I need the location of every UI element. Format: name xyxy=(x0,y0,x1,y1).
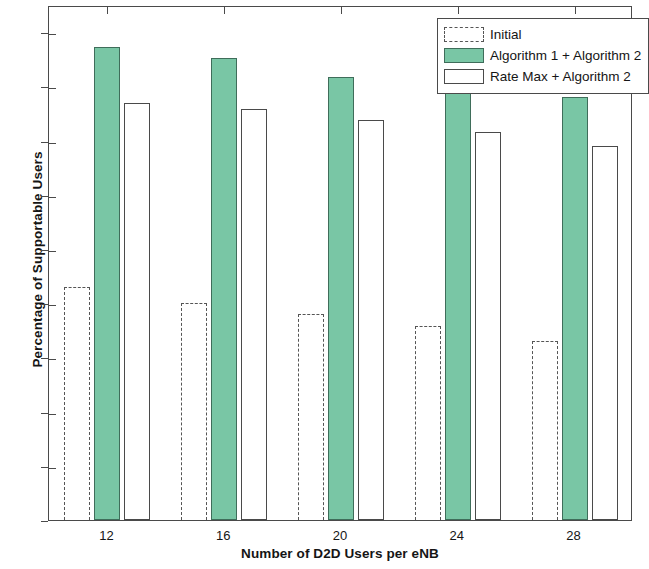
bar-initial xyxy=(64,287,90,520)
bar-algorithm1-algorithm2 xyxy=(211,58,237,520)
bar-algorithm1-algorithm2 xyxy=(562,97,588,520)
x-tick-label: 28 xyxy=(539,528,609,543)
y-tick-inner xyxy=(49,143,56,144)
y-tick-inner xyxy=(49,359,56,360)
plot-area: Initial Algorithm 1 + Algorithm 2 Rate M… xyxy=(48,6,632,521)
bar-algorithm1-algorithm2 xyxy=(445,88,471,520)
bar-algorithm1-algorithm2 xyxy=(328,77,354,520)
bar-initial xyxy=(532,341,558,520)
legend-label-initial: Initial xyxy=(490,27,522,42)
x-tick-top xyxy=(107,7,108,14)
bar-algorithm1-algorithm2 xyxy=(94,47,120,520)
legend-label-rate-max-algorithm2: Rate Max + Algorithm 2 xyxy=(490,69,631,84)
x-tick-top xyxy=(575,7,576,14)
legend-label-algorithm1-algorithm2: Algorithm 1 + Algorithm 2 xyxy=(490,48,641,63)
y-tick-inner xyxy=(49,34,56,35)
legend-item-initial: Initial xyxy=(444,24,642,45)
x-axis-label: Number of D2D Users per eNB xyxy=(48,546,632,561)
y-tick-mark xyxy=(41,87,48,88)
bar-initial xyxy=(415,326,441,520)
y-tick-mark xyxy=(41,358,48,359)
y-tick-inner xyxy=(49,197,56,198)
legend-swatch-algorithm1-algorithm2 xyxy=(444,48,484,63)
legend-item-algorithm1-algorithm2: Algorithm 1 + Algorithm 2 xyxy=(444,45,642,66)
bar-initial xyxy=(181,303,207,520)
y-tick-mark xyxy=(41,467,48,468)
legend-swatch-rate-max-algorithm2 xyxy=(444,69,484,84)
bar-rate-max-algorithm2 xyxy=(124,103,150,520)
y-tick-mark xyxy=(41,413,48,414)
y-tick-mark xyxy=(41,250,48,251)
y-tick-mark xyxy=(41,304,48,305)
y-tick-mark xyxy=(41,521,48,522)
x-tick-label: 20 xyxy=(305,528,375,543)
bar-rate-max-algorithm2 xyxy=(358,120,384,520)
chart-legend: Initial Algorithm 1 + Algorithm 2 Rate M… xyxy=(437,18,649,94)
y-tick-inner xyxy=(49,251,56,252)
y-tick-mark xyxy=(41,142,48,143)
x-tick-label: 12 xyxy=(71,528,141,543)
y-tick-mark xyxy=(41,33,48,34)
legend-item-rate-max-algorithm2: Rate Max + Algorithm 2 xyxy=(444,66,642,87)
y-tick-inner xyxy=(49,414,56,415)
y-tick-inner xyxy=(49,305,56,306)
bar-initial xyxy=(298,314,324,520)
bar-rate-max-algorithm2 xyxy=(592,146,618,520)
bar-rate-max-algorithm2 xyxy=(475,132,501,520)
x-tick-top xyxy=(224,7,225,14)
y-tick-mark xyxy=(41,196,48,197)
x-tick-top xyxy=(458,7,459,14)
y-tick-inner xyxy=(49,468,56,469)
y-tick-inner xyxy=(49,88,56,89)
x-tick-top xyxy=(341,7,342,14)
bar-rate-max-algorithm2 xyxy=(241,109,267,520)
legend-swatch-initial xyxy=(444,27,484,42)
x-tick-label: 16 xyxy=(188,528,258,543)
x-tick-label: 24 xyxy=(422,528,492,543)
